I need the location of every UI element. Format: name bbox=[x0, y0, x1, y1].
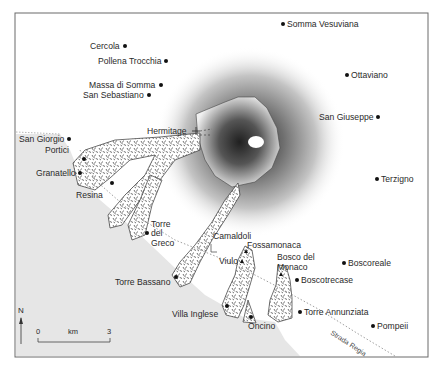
central-crater bbox=[248, 136, 264, 148]
label-boscoreale: Boscoreale bbox=[348, 258, 391, 268]
label-cercola: Cercola bbox=[90, 41, 120, 51]
label-bosco-del-monaco-line2: Monaco bbox=[277, 262, 308, 272]
town-dot-san-giorgio bbox=[67, 137, 71, 141]
town-dot-resina bbox=[110, 181, 114, 185]
label-viulo: Viulo bbox=[219, 256, 238, 266]
town-dot-torre-annunziata bbox=[298, 310, 302, 314]
label-torre-annunziata: Torre Annunziata bbox=[304, 307, 369, 317]
label-ottaviano: Ottaviano bbox=[351, 70, 388, 80]
town-dot-massa-di-somma bbox=[159, 83, 163, 87]
town-dot-portici bbox=[82, 157, 86, 161]
town-dot-ottaviano bbox=[345, 73, 349, 77]
town-dot-pollena-trocchia bbox=[164, 59, 168, 63]
town-dot-torre-del-greco bbox=[145, 231, 149, 235]
label-somma-vesuviana: Somma Vesuviana bbox=[287, 19, 359, 29]
north-label: N bbox=[18, 306, 24, 316]
label-fossamonaca: Fossamonaca bbox=[247, 240, 301, 250]
label-terzigno: Terzigno bbox=[381, 174, 413, 184]
town-dot-boscotrecase bbox=[295, 278, 299, 282]
town-dot-san-sebastiano bbox=[147, 93, 151, 97]
label-torre-del-greco-line3: Greco bbox=[151, 238, 174, 248]
scale-end-label: 3 bbox=[107, 327, 111, 337]
label-hermitage: Hermitage bbox=[147, 126, 187, 136]
label-san-giuseppe: San Giuseppe bbox=[319, 112, 373, 122]
label-boscotrecase: Boscotrecase bbox=[301, 275, 353, 285]
vesuvius-map: Strada Regia Somma Vesuviana Cercola Pol… bbox=[0, 0, 441, 383]
label-bosco-del-monaco-line1: Bosco del bbox=[277, 252, 315, 262]
label-resina: Resina bbox=[76, 190, 103, 200]
label-torre-del-greco-line2: del bbox=[151, 228, 162, 238]
town-dot-cercola bbox=[123, 44, 127, 48]
town-dot-villa-inglese bbox=[225, 304, 229, 308]
label-torre-bassano: Torre Bassano bbox=[115, 277, 170, 287]
label-portici: Portici bbox=[45, 145, 69, 155]
label-camaldoli: Camaldoli bbox=[213, 231, 251, 241]
label-pompeii: Pompeii bbox=[377, 321, 408, 331]
town-dot-boscoreale bbox=[342, 261, 346, 265]
town-dot-somma-vesuviana bbox=[281, 22, 285, 26]
scale-unit-label: km bbox=[68, 327, 78, 337]
town-dot-terzigno bbox=[375, 177, 379, 181]
town-dot-torre-bassano bbox=[174, 275, 178, 279]
town-dot-san-giuseppe bbox=[376, 115, 380, 119]
label-oncino: Oncino bbox=[248, 321, 275, 331]
town-dot-granatello bbox=[78, 171, 82, 175]
label-granatello: Granatello bbox=[36, 168, 76, 178]
label-pollena-trocchia: Pollena Trocchia bbox=[98, 56, 162, 66]
town-dot-oncino bbox=[249, 315, 253, 319]
town-dot-pompeii bbox=[371, 324, 375, 328]
label-massa-di-somma: Massa di Somma bbox=[89, 80, 155, 90]
scale-start-label: 0 bbox=[36, 327, 40, 337]
label-san-sebastiano: San Sebastiano bbox=[83, 90, 144, 100]
label-san-giorgio: San Giorgio bbox=[19, 134, 64, 144]
label-villa-inglese: Villa Inglese bbox=[172, 309, 218, 319]
